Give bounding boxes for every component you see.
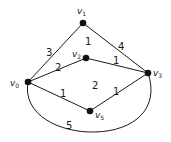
weight-v5-v3: 1 — [113, 86, 119, 97]
weight-v1-v3: 4 — [118, 41, 124, 52]
weight-v0-v3-curved: 5 — [66, 120, 72, 131]
weight-v0-v1: 3 — [46, 47, 52, 58]
face-label-middle: 2 — [92, 80, 98, 91]
vertex-v2 — [83, 55, 90, 62]
vertex-label-v2: v2 — [72, 49, 81, 60]
vertex-v1 — [80, 20, 87, 27]
face-label-upper: 1 — [85, 36, 91, 47]
vertex-label-v3: v3 — [153, 68, 162, 79]
weighted-graph-diagram: v0 v1 v2 v3 v5 3 4 2 1 1 1 5 1 2 — [0, 0, 171, 142]
vertex-v5 — [87, 108, 94, 115]
vertex-label-v5: v5 — [95, 110, 104, 121]
vertex-v0 — [25, 79, 32, 86]
edge-v0-v3-curved — [27, 73, 151, 132]
vertex-v3 — [145, 70, 152, 77]
weight-v0-v5: 1 — [60, 88, 66, 99]
vertex-label-v1: v1 — [77, 6, 86, 17]
weight-v0-v2: 2 — [55, 62, 61, 73]
vertex-label-v0: v0 — [10, 78, 19, 89]
weight-v2-v3: 1 — [113, 55, 119, 66]
edge-v0-v5 — [28, 82, 90, 111]
